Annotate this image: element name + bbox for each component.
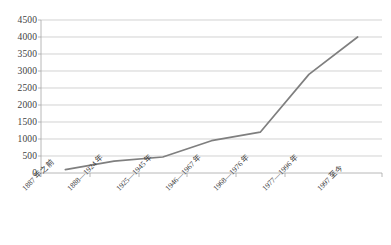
xtick-label-1: 1888—1924 年 <box>66 153 105 192</box>
xtick-label-0: 1887 年之前 <box>21 158 55 192</box>
x-axis-tick-labels: 1887 年之前 1888—1924 年 1925—1945 年 1946—19… <box>0 0 391 245</box>
xtick-label-3: 1946—1967 年 <box>164 153 203 192</box>
xtick-label-4: 1968—1976 年 <box>212 153 251 192</box>
xtick-label-5: 1977—1996 年 <box>261 153 300 192</box>
xtick-label-2: 1925—1945 年 <box>115 153 154 192</box>
xtick-label-6: 1997 至今 <box>316 164 345 193</box>
line-chart: 4500 4000 3500 3000 2500 2000 1500 1000 … <box>0 0 391 245</box>
